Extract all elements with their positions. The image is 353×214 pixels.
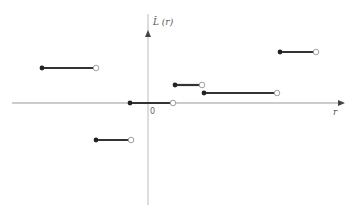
step-segment [278,49,319,55]
closed-endpoint-icon [128,101,133,106]
step-segment [40,65,99,71]
closed-endpoint-icon [278,50,283,55]
step-segment [128,100,176,106]
closed-endpoint-icon [173,83,178,88]
step-segment [202,90,280,96]
x-axis-arrow-icon [338,100,345,106]
segments [40,49,319,143]
x-axis-label: r [333,107,338,117]
y-axis-label: L̂ (r) [152,16,174,27]
closed-endpoint-icon [94,138,99,143]
open-endpoint-icon [128,137,134,143]
closed-endpoint-icon [202,91,207,96]
open-endpoint-icon [93,65,99,71]
open-endpoint-icon [274,90,280,96]
open-endpoint-icon [313,49,319,55]
closed-endpoint-icon [40,66,45,71]
origin-label: 0 [150,107,155,116]
axes [12,14,345,205]
y-axis-arrow-icon [145,30,151,37]
step-segment [173,82,205,88]
open-endpoint-icon [199,82,205,88]
step-function-chart: L̂ (r) r 0 [0,0,353,214]
open-endpoint-icon [170,100,176,106]
step-segment [94,137,134,143]
